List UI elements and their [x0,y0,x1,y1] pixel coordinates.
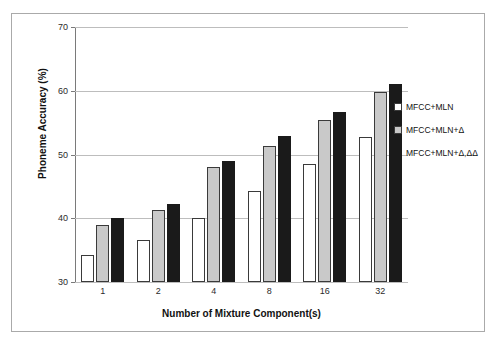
bar [81,255,94,282]
x-tick-label: 2 [131,286,187,302]
bar [359,137,372,282]
bar-group [75,27,131,282]
y-axis-title: Phoneme Accuracy (%) [37,44,48,204]
legend-swatch-icon [394,103,402,111]
x-tick-label: 16 [297,286,353,302]
bar [207,167,220,282]
bar [263,146,276,282]
legend-item[interactable]: MFCC+MLN [394,102,497,112]
chart-figure: 3040506070 Phoneme Accuracy (%) 12481632… [11,13,485,332]
bar [374,92,387,282]
bar [96,225,109,282]
bar [248,191,261,282]
x-tick-label: 32 [353,286,409,302]
chart-legend: MFCC+MLNMFCC+MLN+ΔMFCC+MLN+Δ,ΔΔ [394,102,497,171]
x-tick-label: 4 [186,286,242,302]
x-tick-label: 1 [75,286,131,302]
legend-label: MFCC+MLN+Δ [406,125,464,135]
bar [167,204,180,282]
x-axis-title: Number of Mixture Component(s) [75,308,408,319]
y-tick-label: 30 [38,277,68,287]
bar [137,240,150,282]
y-tick-30 [71,282,75,283]
x-axis-tick-labels: 12481632 [75,286,408,302]
bar [152,210,165,282]
bar-group [297,27,353,282]
y-tick-label: 70 [38,22,68,32]
plot-area [75,27,408,282]
bar [278,136,291,282]
bar-group [242,27,298,282]
bar [303,164,316,282]
bar [318,120,331,282]
bar-group [186,27,242,282]
legend-swatch-icon [394,126,402,134]
bar [333,112,346,282]
bar [111,218,124,282]
legend-item[interactable]: MFCC+MLN+Δ [394,125,497,135]
bar-group [131,27,187,282]
legend-label: MFCC+MLN [406,102,453,112]
legend-item[interactable]: MFCC+MLN+Δ,ΔΔ [394,148,497,158]
y-tick-label: 40 [38,213,68,223]
gridline-30 [75,282,408,283]
legend-swatch-icon [394,149,402,157]
legend-label: MFCC+MLN+Δ,ΔΔ [406,148,478,158]
x-tick-label: 8 [242,286,298,302]
bar [222,161,235,282]
bar [192,218,205,282]
